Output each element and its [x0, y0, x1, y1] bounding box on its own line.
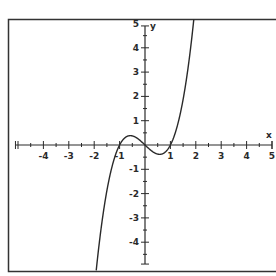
- y-tick-label: 2: [133, 91, 139, 101]
- x-tick-label: -4: [38, 151, 48, 161]
- x-tick-label: 3: [218, 151, 224, 161]
- x-tick-label: 4: [243, 151, 249, 161]
- x-tick-label: 1: [167, 151, 173, 161]
- y-tick-label: 4: [133, 43, 139, 53]
- function-plot: -4-3-2-112345-4-3-2-112345 x y: [0, 0, 276, 276]
- x-tick-label: 2: [193, 151, 199, 161]
- y-tick-label: 3: [133, 67, 139, 77]
- y-tick-label: 5: [133, 19, 139, 29]
- x-axis-label: x: [266, 130, 272, 140]
- y-axis-label: y: [150, 21, 156, 31]
- tick-labels: -4-3-2-112345-4-3-2-112345: [38, 19, 275, 248]
- y-tick-label: -3: [129, 213, 139, 223]
- x-tick-label: 5: [269, 151, 275, 161]
- x-tick-label: -2: [89, 151, 99, 161]
- x-tick-label: -3: [64, 151, 74, 161]
- y-tick-label: -4: [129, 237, 139, 247]
- y-tick-label: -1: [129, 164, 139, 174]
- y-tick-label: -2: [129, 189, 139, 199]
- y-tick-label: 1: [133, 116, 139, 126]
